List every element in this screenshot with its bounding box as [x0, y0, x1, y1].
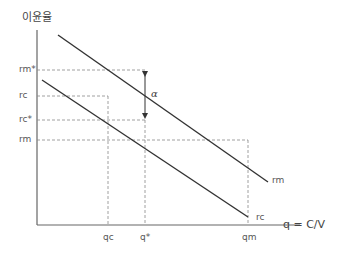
y-tick-rm: rm [19, 135, 31, 144]
y-axis-label: 이윤율 [22, 12, 52, 23]
x-tick-qm: qm [242, 233, 256, 242]
line-rc-label: rc [256, 213, 264, 222]
x-axis-label: q = C/V [283, 219, 325, 230]
x-tick-q-star: q* [140, 233, 150, 242]
line-rm-label: rm [272, 176, 284, 185]
y-tick-rc-star: rc* [19, 115, 32, 124]
y-tick-rm-star: rm* [19, 65, 36, 74]
x-tick-qc: qc [103, 233, 114, 242]
alpha-label: α [151, 89, 158, 99]
y-tick-rc: rc [19, 91, 27, 100]
